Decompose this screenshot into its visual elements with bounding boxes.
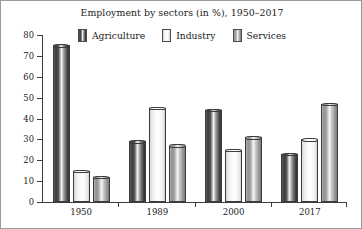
y-tick: 40: [37, 119, 42, 120]
y-tick-label: 50: [23, 93, 34, 103]
y-tick-label: 20: [23, 155, 34, 165]
bar-group: 2000: [196, 35, 272, 202]
bar-cap: [322, 103, 338, 106]
bar-groups: 1950198920002017: [43, 35, 347, 202]
x-tick: [346, 203, 347, 207]
bar-cap: [149, 107, 165, 110]
plot-area: 01020304050607080 1950198920002017: [42, 35, 347, 203]
bar-industry-1989[interactable]: [149, 108, 166, 202]
bar-cap: [225, 149, 241, 152]
y-tick: 30: [37, 139, 42, 140]
bar-cap: [53, 44, 69, 47]
bar-services-2000[interactable]: [245, 137, 262, 202]
y-tick: 10: [37, 181, 42, 182]
chart-figure: Employment by sectors (in %), 1950–2017 …: [0, 0, 362, 229]
bar-industry-2017[interactable]: [301, 139, 318, 202]
bar-cap: [302, 138, 318, 141]
bar-cap: [205, 109, 221, 112]
y-tick-label: 30: [23, 134, 34, 144]
bar-group: 1989: [119, 35, 195, 202]
y-tick: 20: [37, 160, 42, 161]
y-tick: 70: [37, 56, 42, 57]
y-tick: 80: [37, 35, 42, 36]
bar-services-1989[interactable]: [169, 146, 186, 202]
y-tick-label: 60: [23, 72, 34, 82]
y-tick: 50: [37, 98, 42, 99]
bar-agriculture-2017[interactable]: [281, 154, 298, 202]
y-tick: 60: [37, 77, 42, 78]
bar-cap: [73, 170, 89, 173]
bar-group: 2017: [272, 35, 348, 202]
x-tick-label: 1950: [70, 207, 92, 217]
bar-cap: [169, 144, 185, 147]
y-tick-label: 40: [23, 114, 34, 124]
bar-cap: [245, 136, 261, 139]
y-tick-label: 80: [23, 30, 34, 40]
y-tick: 0: [37, 202, 42, 203]
bar-cap: [129, 140, 145, 143]
bar-services-2017[interactable]: [321, 104, 338, 202]
x-tick: [118, 203, 119, 207]
bar-agriculture-1989[interactable]: [129, 141, 146, 202]
bar-agriculture-1950[interactable]: [53, 45, 70, 202]
x-tick-label: 2000: [223, 207, 245, 217]
bar-services-1950[interactable]: [93, 177, 110, 202]
bar-industry-1950[interactable]: [73, 171, 90, 202]
x-tick-label: 1989: [146, 207, 168, 217]
bar-cap: [93, 176, 109, 179]
y-tick-label: 0: [29, 197, 34, 207]
chart-title: Employment by sectors (in %), 1950–2017: [1, 7, 362, 18]
y-tick-label: 10: [23, 176, 34, 186]
x-tick: [271, 203, 272, 207]
bar-cap: [282, 153, 298, 156]
bar-agriculture-2000[interactable]: [205, 110, 222, 202]
x-tick: [195, 203, 196, 207]
bar-group: 1950: [43, 35, 119, 202]
x-tick-label: 2017: [299, 207, 321, 217]
y-tick-label: 70: [23, 51, 34, 61]
bar-industry-2000[interactable]: [225, 150, 242, 202]
